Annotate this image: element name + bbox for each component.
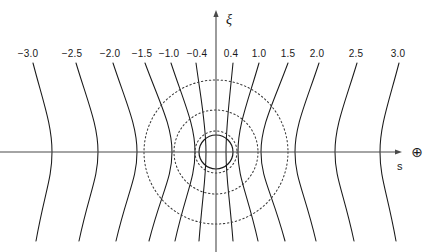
tick-label-1: −2.5	[62, 48, 83, 59]
horizontal-axis-label: s	[397, 160, 403, 172]
tick-label-10: 2.5	[349, 48, 364, 59]
tick-label-9: 2.0	[310, 48, 325, 59]
tick-label-5: −0.4	[187, 48, 208, 59]
tick-label-4: −1.0	[159, 48, 180, 59]
tick-label-2: −2.0	[100, 48, 121, 59]
tick-label-3: −1.5	[132, 48, 153, 59]
tick-label-6: 0.4	[224, 48, 239, 59]
tick-label-7: 1.0	[252, 48, 267, 59]
earth-symbol: ⊕	[411, 145, 423, 159]
plot-canvas	[0, 0, 433, 252]
field-line-diagram: −3.0−2.5−2.0−1.5−1.0−0.40.41.01.52.02.53…	[0, 0, 433, 252]
tick-label-0: −3.0	[18, 48, 39, 59]
tick-label-8: 1.5	[281, 48, 296, 59]
vertical-axis-arrowhead	[213, 10, 218, 17]
tick-label-11: 3.0	[391, 48, 406, 59]
vertical-axis-label: ξ	[226, 12, 232, 28]
horizontal-axis-arrowhead	[395, 149, 402, 154]
